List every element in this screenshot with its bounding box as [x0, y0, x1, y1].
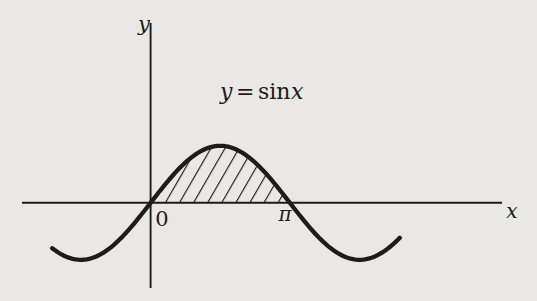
equation-lhs: y: [219, 79, 233, 104]
equation-equals: =: [236, 79, 254, 104]
y-axis-label: y: [137, 12, 151, 36]
paper-texture: [0, 0, 537, 301]
equation-func: sin: [258, 79, 291, 104]
origin-tick-label: 0: [155, 207, 168, 231]
pi-tick-label: π: [277, 202, 292, 226]
x-axis-label: x: [506, 199, 517, 223]
sine-chart: y x 0 π y = sin x: [0, 0, 537, 301]
textbook-figure: y x 0 π y = sin x: [0, 0, 537, 301]
equation-arg: x: [291, 79, 304, 104]
equation-label: y = sin x: [219, 79, 304, 104]
